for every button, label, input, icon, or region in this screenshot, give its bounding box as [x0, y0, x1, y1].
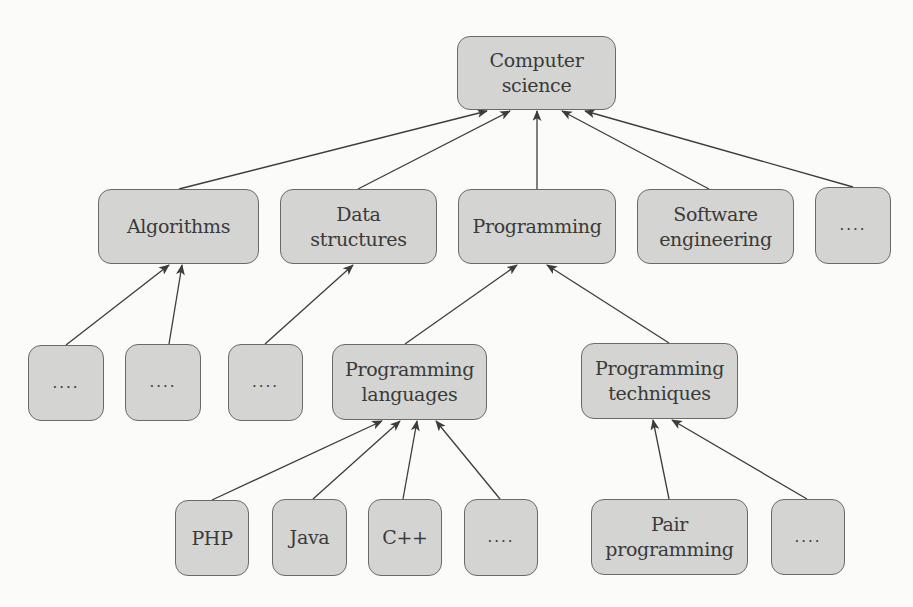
node-algorithms-more-1: ....	[28, 345, 104, 421]
edge-arrow-programming-languages-to-programming	[405, 265, 517, 344]
node-programming: Programming	[458, 189, 616, 264]
edge-arrow-algorithms-to-computer-science	[179, 111, 487, 189]
edge-arrow-software-engineering-to-computer-science	[562, 111, 709, 189]
edge-arrow-cs-more-to-computer-science	[585, 111, 853, 187]
node-label: Algorithms	[127, 214, 230, 239]
edge-arrow-techniques-more-to-programming-techniques	[672, 420, 807, 499]
edge-arrow-cpp-to-programming-languages	[403, 421, 417, 499]
edge-arrow-algorithms-more-1-to-algorithms	[66, 265, 169, 345]
node-label: Java	[290, 525, 330, 550]
node-cs-more: ....	[815, 187, 891, 264]
node-label: ....	[839, 213, 866, 238]
edge-arrow-pair-programming-to-programming-techniques	[653, 420, 669, 499]
node-data-structures: Data structures	[280, 189, 437, 264]
node-computer-science: Computer science	[457, 36, 616, 110]
node-label: Data structures	[310, 202, 406, 252]
node-label: ....	[487, 525, 514, 550]
node-pair-programming: Pair programming	[591, 499, 748, 575]
node-php: PHP	[175, 500, 249, 576]
node-cpp: C++	[368, 499, 442, 576]
node-label: ....	[252, 370, 279, 395]
node-languages-more: ....	[464, 499, 538, 576]
edge-arrow-algorithms-more-2-to-algorithms	[169, 265, 182, 344]
node-java: Java	[272, 499, 347, 576]
node-label: ....	[794, 525, 821, 550]
node-label: Pair programming	[605, 512, 733, 562]
node-label: Computer science	[490, 48, 584, 98]
node-label: ....	[52, 371, 79, 396]
edge-arrow-programming-techniques-to-programming	[547, 265, 669, 343]
edge-arrow-languages-more-to-programming-languages	[436, 421, 500, 499]
node-label: ....	[149, 370, 176, 395]
node-data-structures-more: ....	[228, 344, 303, 421]
node-label: Programming languages	[345, 357, 474, 407]
node-label: Programming	[472, 214, 601, 239]
computer-science-hierarchy-diagram: Computer scienceAlgorithmsData structure…	[0, 0, 913, 607]
node-label: Programming techniques	[595, 356, 724, 406]
node-label: PHP	[191, 526, 232, 551]
node-label: Software engineering	[659, 202, 772, 252]
edge-arrow-data-structures-to-computer-science	[358, 111, 510, 189]
node-software-engineering: Software engineering	[637, 189, 794, 264]
node-algorithms: Algorithms	[98, 189, 259, 264]
node-algorithms-more-2: ....	[125, 344, 201, 421]
node-techniques-more: ....	[771, 499, 845, 575]
node-label: C++	[382, 525, 427, 550]
edge-arrow-data-structures-more-to-data-structures	[265, 265, 353, 344]
node-programming-languages: Programming languages	[332, 344, 487, 420]
node-programming-techniques: Programming techniques	[581, 343, 738, 419]
